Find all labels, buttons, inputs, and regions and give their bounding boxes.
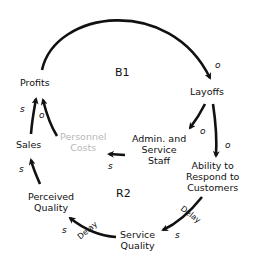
polarity-sales-profits: s xyxy=(20,104,25,114)
polarity-admin-costs: s xyxy=(108,161,113,171)
admin-line-2: Service xyxy=(132,144,186,155)
service-line-1: Service xyxy=(120,229,155,240)
costs-line-2: Costs xyxy=(60,142,106,153)
admin-line-1: Admin. and xyxy=(132,133,186,144)
node-profits: Profits xyxy=(20,77,50,88)
costs-line-1: Personnel xyxy=(60,131,106,142)
polarity-costs-profits: o xyxy=(39,110,45,120)
ability-line-3: Customers xyxy=(186,182,239,193)
ability-line-1: Ability to xyxy=(186,160,239,171)
polarity-ability-service: s xyxy=(175,230,180,240)
arrow-costs-profits xyxy=(43,100,57,136)
arrows-layer xyxy=(0,0,261,261)
node-sales: Sales xyxy=(16,139,41,150)
node-personnel-costs: Personnel Costs xyxy=(60,131,106,153)
polarity-profits-layoffs: o xyxy=(215,60,221,70)
node-perceived-quality: Perceived Quality xyxy=(28,191,74,213)
perceived-line-1: Perceived xyxy=(28,191,74,202)
node-ability: Ability to Respond to Customers xyxy=(186,160,239,193)
polarity-service-perceived: s xyxy=(62,225,67,235)
node-layoffs: Layoffs xyxy=(190,86,224,97)
polarity-perceived-sales: s xyxy=(19,164,24,174)
perceived-line-2: Quality xyxy=(28,202,74,213)
arrow-sales-profits xyxy=(31,99,36,134)
loop-label-b1: B1 xyxy=(115,66,130,79)
admin-line-3: Staff xyxy=(132,155,186,166)
arrow-admin-costs xyxy=(109,154,125,155)
arrow-layoffs-admin xyxy=(190,104,205,128)
arrow-perceived-sales xyxy=(31,160,40,184)
loop-label-r2: R2 xyxy=(116,187,131,200)
polarity-layoffs-admin: o xyxy=(200,126,206,136)
arrow-layoffs-ability xyxy=(213,104,216,156)
polarity-layoffs-ability: o xyxy=(225,140,231,150)
node-admin-staff: Admin. and Service Staff xyxy=(132,133,186,166)
node-service-quality: Service Quality xyxy=(120,229,155,251)
service-line-2: Quality xyxy=(120,240,155,251)
ability-line-2: Respond to xyxy=(186,171,239,182)
